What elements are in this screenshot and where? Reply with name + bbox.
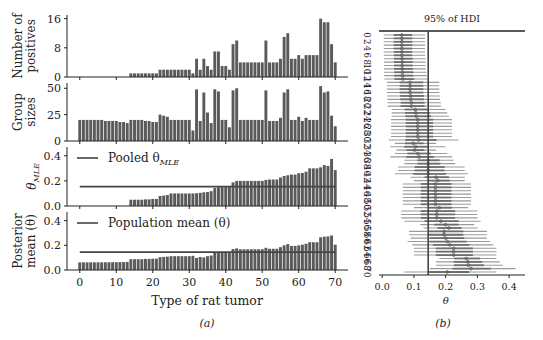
bar xyxy=(210,123,213,141)
bar xyxy=(126,262,129,270)
bar xyxy=(144,73,147,77)
bar xyxy=(334,245,337,270)
bar xyxy=(129,73,132,77)
bar xyxy=(188,70,191,77)
bar xyxy=(137,200,140,206)
x-tick-label: 20 xyxy=(146,276,160,289)
bar xyxy=(297,245,300,270)
bar xyxy=(232,90,235,141)
bar xyxy=(275,62,278,77)
x-tick-label: 10 xyxy=(109,276,123,289)
bar xyxy=(202,92,205,141)
legend-label: Pooled θMLE xyxy=(108,151,179,167)
caption-b: (b) xyxy=(435,317,451,330)
bar xyxy=(279,59,282,77)
bar xyxy=(334,62,337,77)
bar xyxy=(82,262,85,270)
bar xyxy=(170,120,173,141)
bar xyxy=(305,172,308,206)
bar xyxy=(235,181,238,206)
bar xyxy=(148,259,151,270)
bar xyxy=(188,256,191,270)
bar xyxy=(162,116,165,141)
bar xyxy=(129,200,132,206)
bar xyxy=(239,181,242,206)
bar xyxy=(155,73,158,77)
y-axis-label: Number ofpositives xyxy=(11,12,38,79)
bar xyxy=(279,178,282,206)
y-tick-label: 16 xyxy=(47,13,61,26)
x-tick-label: 0.0 xyxy=(375,281,390,292)
hdi-title: 95% of HDI xyxy=(424,13,480,24)
bar xyxy=(217,51,220,77)
bar xyxy=(275,180,278,206)
bar xyxy=(195,193,198,206)
bar xyxy=(180,70,183,77)
y-tick-label: 0.4 xyxy=(44,215,62,228)
bar xyxy=(235,88,238,141)
bar xyxy=(330,159,333,206)
bar xyxy=(144,121,147,141)
bar xyxy=(111,121,114,141)
bar xyxy=(261,181,264,206)
bar xyxy=(118,122,121,141)
bar xyxy=(170,256,173,270)
bar xyxy=(228,70,231,77)
figure: 0816Number ofpositives 02550Groupsizes 0… xyxy=(0,0,543,340)
bar xyxy=(257,62,260,77)
y-axis-label: Groupsizes xyxy=(11,93,38,131)
bar xyxy=(89,120,92,141)
bar xyxy=(323,165,326,206)
x-tick-label: 0.2 xyxy=(438,281,453,292)
bar xyxy=(213,89,216,141)
bar xyxy=(290,175,293,206)
bar xyxy=(162,70,165,77)
bar xyxy=(206,113,209,141)
y-tick-label: 0.0 xyxy=(44,200,62,213)
bar xyxy=(97,262,100,270)
bar xyxy=(264,90,267,141)
bar xyxy=(86,120,89,141)
bar xyxy=(272,121,275,141)
bar xyxy=(283,37,286,77)
bar xyxy=(195,258,198,270)
bar xyxy=(243,62,246,77)
row-label: 6 xyxy=(362,53,372,58)
bar xyxy=(82,120,85,141)
bar xyxy=(290,246,293,270)
bar xyxy=(221,252,224,270)
bar xyxy=(217,187,220,206)
bar xyxy=(290,59,293,77)
bar xyxy=(250,181,253,206)
bar xyxy=(177,256,180,270)
bar xyxy=(253,181,256,206)
y-axis-label: Posteriormean (θ) xyxy=(11,213,38,269)
bar xyxy=(159,257,162,270)
bar xyxy=(191,193,194,206)
y-tick-label: 0.2 xyxy=(44,239,62,252)
bar xyxy=(316,242,319,270)
bar xyxy=(140,120,143,141)
bar xyxy=(195,89,198,141)
bar xyxy=(115,262,118,270)
bar xyxy=(177,70,180,77)
bar xyxy=(170,70,173,77)
bar xyxy=(148,199,151,206)
bar xyxy=(283,245,286,270)
bar xyxy=(257,120,260,141)
bar xyxy=(308,120,311,141)
bar xyxy=(319,86,322,141)
bar xyxy=(78,262,81,270)
bar xyxy=(301,121,304,141)
bar xyxy=(177,120,180,141)
bar xyxy=(188,120,191,141)
y-tick-label: 0 xyxy=(54,135,61,148)
bar xyxy=(111,262,114,270)
bar xyxy=(184,70,187,77)
bar xyxy=(148,73,151,77)
bar xyxy=(294,59,297,77)
bar xyxy=(294,175,297,206)
bar xyxy=(104,121,107,141)
bar xyxy=(180,256,183,270)
bar xyxy=(224,187,227,206)
